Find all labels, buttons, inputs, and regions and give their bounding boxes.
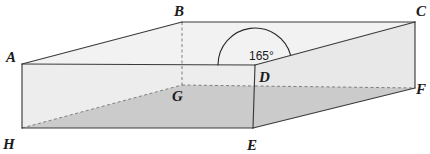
geometry-figure-container: 165° A B C D E F G H: [0, 0, 430, 154]
vertex-label-H: H: [2, 136, 16, 152]
vertex-label-G: G: [172, 88, 183, 104]
geometry-figure-svg: 165° A B C D E F G H: [0, 0, 430, 154]
vertex-label-A: A: [5, 49, 16, 65]
angle-value-label: 165°: [249, 49, 274, 63]
vertex-label-D: D: [258, 69, 270, 85]
vertex-label-E: E: [246, 137, 257, 153]
vertex-label-F: F: [415, 81, 426, 97]
vertex-label-B: B: [173, 3, 184, 19]
vertex-label-C: C: [416, 3, 427, 19]
